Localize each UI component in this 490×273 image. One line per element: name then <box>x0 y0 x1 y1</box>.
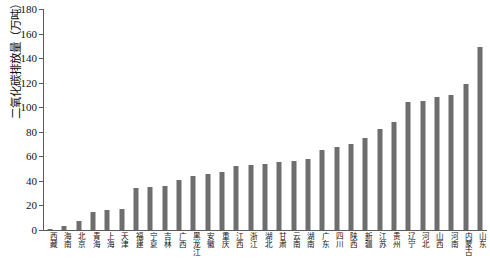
x-axis-label: 山东 <box>474 232 486 248</box>
bar[interactable] <box>177 180 182 230</box>
bar-slot[interactable] <box>329 9 343 230</box>
bar-slot[interactable] <box>272 9 286 230</box>
bar-slot[interactable] <box>215 9 229 230</box>
bar-slot[interactable] <box>258 9 272 230</box>
x-axis-label: 福建 <box>130 232 142 248</box>
x-axis-label: 湖北 <box>259 232 271 248</box>
x-axis-label: 上海 <box>101 232 113 248</box>
bar[interactable] <box>463 84 468 230</box>
bar-slot[interactable] <box>301 9 315 230</box>
x-axis-label: 西藏 <box>44 232 56 248</box>
y-tick-label: 80 <box>26 126 37 137</box>
y-tick-label: 40 <box>26 175 37 186</box>
bar[interactable] <box>348 144 353 230</box>
bar[interactable] <box>320 150 325 230</box>
bar[interactable] <box>191 176 196 230</box>
bar[interactable] <box>162 186 167 230</box>
bar[interactable] <box>391 122 396 230</box>
x-axis-label: 宁夏 <box>144 232 156 248</box>
x-axis-label: 河北 <box>417 232 429 248</box>
bar[interactable] <box>105 210 110 230</box>
bar-slot[interactable] <box>86 9 100 230</box>
bar-slot[interactable] <box>415 9 429 230</box>
bar-slot[interactable] <box>43 9 57 230</box>
bar-slot[interactable] <box>129 9 143 230</box>
bar[interactable] <box>434 97 439 230</box>
bar-slot[interactable] <box>158 9 172 230</box>
bar-slot[interactable] <box>172 9 186 230</box>
bar[interactable] <box>477 47 482 230</box>
bar-slot[interactable] <box>286 9 300 230</box>
bar[interactable] <box>334 147 339 230</box>
bar-slot[interactable] <box>358 9 372 230</box>
y-tick-label: 0 <box>32 225 38 236</box>
bar-slot[interactable] <box>57 9 71 230</box>
y-tick-label: 60 <box>26 151 37 162</box>
bar-slot[interactable] <box>244 9 258 230</box>
bar-series <box>43 9 487 230</box>
x-axis-label: 辽宁 <box>402 232 414 248</box>
bar-slot[interactable] <box>115 9 129 230</box>
y-tick-label: 140 <box>21 53 38 64</box>
bar-slot[interactable] <box>201 9 215 230</box>
bar-slot[interactable] <box>344 9 358 230</box>
x-axis-label: 青海 <box>87 232 99 248</box>
y-tick-label: 100 <box>21 102 38 113</box>
bar[interactable] <box>248 165 253 230</box>
bar[interactable] <box>420 101 425 230</box>
x-axis-label: 甘肃 <box>273 232 285 248</box>
bar[interactable] <box>363 138 368 230</box>
bar-slot[interactable] <box>444 9 458 230</box>
bar[interactable] <box>91 212 96 230</box>
y-tick-label: 120 <box>21 77 38 88</box>
x-axis-label: 云南 <box>288 232 300 248</box>
bar-slot[interactable] <box>186 9 200 230</box>
bar-slot[interactable] <box>100 9 114 230</box>
y-tick-label: 180 <box>21 4 38 15</box>
bar[interactable] <box>377 129 382 230</box>
bar-slot[interactable] <box>458 9 472 230</box>
x-axis-label: 内蒙古 <box>460 232 472 256</box>
bar[interactable] <box>205 174 210 230</box>
bar[interactable] <box>148 187 153 230</box>
x-axis-label: 广西 <box>173 232 185 248</box>
bar-slot[interactable] <box>143 9 157 230</box>
bar[interactable] <box>291 161 296 230</box>
bar-slot[interactable] <box>72 9 86 230</box>
bar[interactable] <box>449 95 454 230</box>
bar[interactable] <box>119 209 124 230</box>
bar[interactable] <box>48 229 53 230</box>
bar-slot[interactable] <box>430 9 444 230</box>
bar[interactable] <box>234 166 239 230</box>
bar-slot[interactable] <box>372 9 386 230</box>
y-tick-label: 20 <box>26 200 37 211</box>
bar[interactable] <box>277 162 282 230</box>
x-axis-label: 江苏 <box>374 232 386 248</box>
bar[interactable] <box>220 172 225 230</box>
x-axis-label: 安徽 <box>202 232 214 248</box>
bar[interactable] <box>262 164 267 230</box>
bar-slot[interactable] <box>315 9 329 230</box>
x-axis-label: 河南 <box>445 232 457 248</box>
x-axis-label: 四川 <box>331 232 343 248</box>
bar[interactable] <box>62 226 67 230</box>
x-axis-line <box>43 230 487 231</box>
bar[interactable] <box>305 159 310 230</box>
bar[interactable] <box>134 188 139 230</box>
bar-slot[interactable] <box>401 9 415 230</box>
x-axis-label: 江西 <box>230 232 242 248</box>
x-axis-label: 新疆 <box>359 232 371 248</box>
bar-slot[interactable] <box>473 9 487 230</box>
y-tick-mark <box>39 230 43 231</box>
x-axis-label: 湖南 <box>302 232 314 248</box>
bar-slot[interactable] <box>229 9 243 230</box>
x-axis-label: 海南 <box>58 232 70 248</box>
chart-container: 二氧化碳排放量（万吨） 020406080100120140160180 西藏海… <box>0 0 490 273</box>
y-tick-label: 160 <box>21 28 38 39</box>
x-axis-labels: 西藏海南北京青海上海天津福建宁夏吉林广西黑龙江安徽重庆江西浙江湖北甘肃云南湖南广… <box>43 232 487 273</box>
bar-slot[interactable] <box>387 9 401 230</box>
bar[interactable] <box>406 102 411 230</box>
bar[interactable] <box>76 221 81 230</box>
x-axis-label: 重庆 <box>216 232 228 248</box>
x-axis-label: 黑龙江 <box>187 232 199 256</box>
